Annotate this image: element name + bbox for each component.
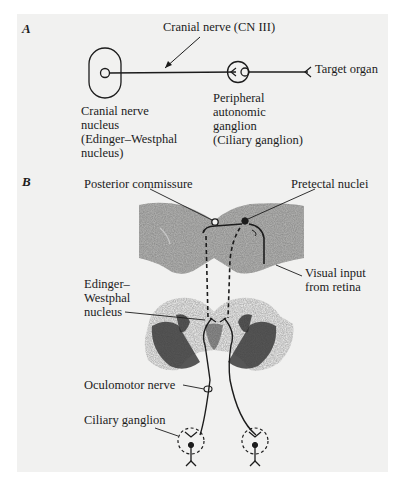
nucleus-label: Cranial nerve nucleus (Edinger–Westphal …: [81, 104, 178, 160]
ganglion-label: Peripheral autonomic ganglion (Ciliary g…: [213, 91, 303, 147]
svg-text:nucleus): nucleus): [81, 146, 123, 160]
svg-text:Edinger–: Edinger–: [84, 277, 131, 291]
panel-b-letter: B: [21, 174, 31, 189]
midbrain-brain-section: [145, 298, 294, 371]
edinger-westphal-label: Edinger– Westphal nucleus: [84, 277, 131, 319]
svg-text:nucleus: nucleus: [84, 305, 122, 319]
svg-text:ganglion: ganglion: [213, 119, 257, 133]
pretectal-nuclei-label: Pretectal nuclei: [291, 177, 369, 191]
preganglionic-fiber: [110, 72, 237, 73]
oculomotor-nerve-label: Oculomotor nerve: [84, 378, 176, 392]
svg-text:Visual input: Visual input: [305, 266, 366, 280]
ciliary-ganglion-label: Ciliary ganglion: [84, 413, 166, 427]
arrowhead-icon: [165, 61, 172, 68]
target-organ-label: Target organ: [315, 62, 379, 76]
cranial-nerve-label: Cranial nerve (CN III): [163, 20, 275, 34]
svg-text:autonomic: autonomic: [213, 105, 266, 119]
panel-a-letter: A: [21, 21, 31, 36]
svg-text:Peripheral: Peripheral: [213, 91, 265, 105]
svg-text:(Edinger–Westphal: (Edinger–Westphal: [81, 132, 178, 146]
svg-text:nucleus: nucleus: [81, 118, 119, 132]
svg-text:Westphal: Westphal: [84, 291, 131, 305]
svg-text:from retina: from retina: [305, 280, 361, 294]
pretectal-brain-section: [139, 203, 304, 274]
visual-input-label: Visual input from retina: [305, 266, 366, 294]
svg-text:Cranial nerve: Cranial nerve: [81, 104, 149, 118]
svg-text:(Ciliary ganglion): (Ciliary ganglion): [213, 133, 303, 147]
posterior-commissure-label: Posterior commissure: [84, 177, 193, 191]
diagram-canvas: A Cranial nerve (CN III) Target organ Cr…: [0, 0, 400, 484]
